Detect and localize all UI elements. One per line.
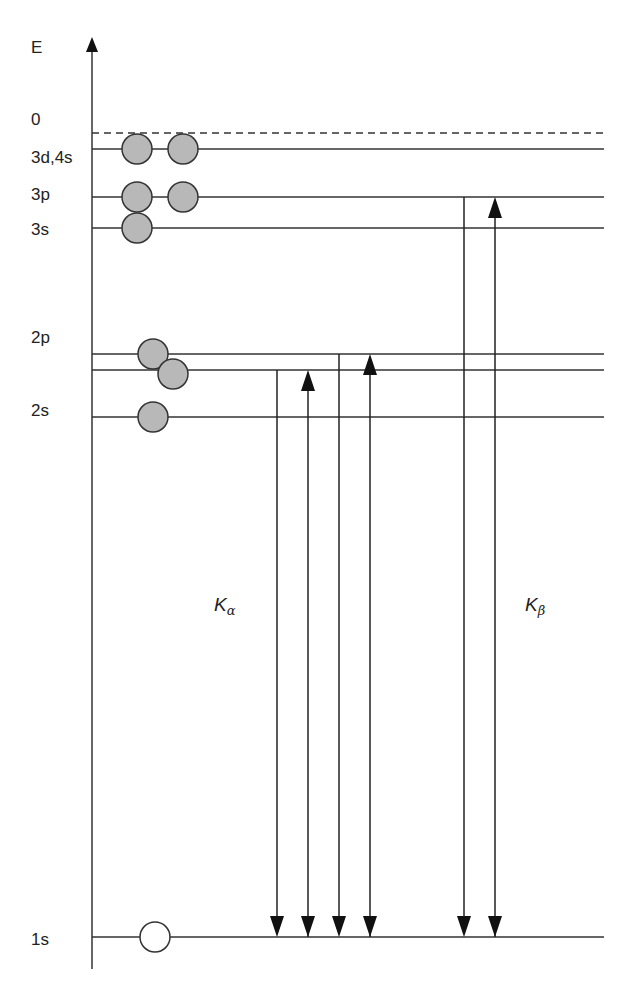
k-beta-label: Kβ [525,594,545,618]
arrow-up-icon [301,370,315,391]
hole-1s [140,922,170,952]
electrons [122,134,198,952]
arrow-up-icon [488,197,502,218]
arrow-down-icon [363,916,377,937]
arrow-down-icon [457,916,471,937]
k-beta-transitions [457,197,502,937]
level-label-1s: 1s [31,930,49,949]
electron-3d4s-1 [122,134,152,164]
energy-axis [86,37,98,969]
axis-label-E: E [31,38,42,57]
k-alpha-transitions [270,354,377,937]
energy-levels [92,133,604,937]
level-label-3s: 3s [31,220,49,239]
level-label-2s: 2s [31,401,49,420]
electron-3d4s-2 [168,134,198,164]
level-label-3d4s: 3d,4s [31,148,73,167]
arrow-down-icon [488,916,502,937]
electron-3p-2 [168,182,198,212]
level-label-2p: 2p [31,328,50,347]
electron-2p-2 [158,359,188,389]
arrow-up-icon [363,354,377,375]
level-label-3p: 3p [31,185,50,204]
k-alpha-label: Kα [214,594,236,618]
axis-arrow-icon [86,37,98,52]
energy-level-diagram: E 0 3d,4s 3p 3s 2p 2s 1s [0,0,631,991]
arrow-down-icon [270,916,284,937]
level-label-0: 0 [31,110,40,129]
level-labels: E 0 3d,4s 3p 3s 2p 2s 1s [31,38,73,949]
electron-2s [138,402,168,432]
arrow-down-icon [332,916,346,937]
electron-3p-1 [122,182,152,212]
arrow-down-icon [301,916,315,937]
electron-3s [122,213,152,243]
